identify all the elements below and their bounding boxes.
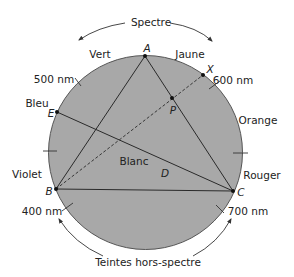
point-p-label: P: [170, 104, 177, 116]
jaune-label: Jaune: [174, 48, 204, 60]
point-e-label: E: [48, 107, 55, 119]
violet-label: Violet: [12, 168, 42, 180]
point-a: [143, 54, 147, 58]
orange-label: Orange: [239, 114, 278, 126]
700nm-label: 700 nm: [228, 205, 268, 217]
point-c: [231, 189, 235, 193]
arrow-spectre-right: [170, 23, 212, 41]
point-b-label: B: [45, 185, 52, 197]
blanc-label: Blanc: [120, 155, 149, 167]
spectre-label: Spectre: [131, 16, 171, 28]
point-x-label: X: [205, 63, 214, 75]
500nm-label: 500 nm: [34, 73, 74, 85]
point-d-label: D: [161, 167, 169, 179]
400nm-label: 400 nm: [22, 205, 62, 217]
bleu-label: Bleu: [25, 97, 48, 109]
point-c-label: C: [237, 186, 245, 198]
teintes-hors-spectre-label: Teintes hors-spectre: [94, 256, 201, 268]
point-a-label: A: [142, 42, 150, 54]
rouge-label: Rouger: [243, 169, 281, 181]
600nm-label: 600 nm: [213, 74, 253, 86]
point-p: [170, 96, 174, 100]
vert-label: Vert: [89, 48, 110, 60]
point-e: [55, 110, 59, 114]
arrow-spectre-left: [79, 23, 125, 40]
point-b: [54, 187, 58, 191]
point-x: [201, 73, 205, 77]
chromaticity-circle-diagram: Spectre Teintes hors-spectre Vert Jaune …: [0, 0, 294, 277]
